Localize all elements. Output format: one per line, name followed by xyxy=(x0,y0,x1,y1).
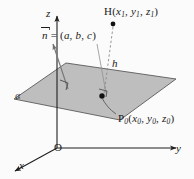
origin-label: O xyxy=(54,142,62,153)
figure-canvas xyxy=(0,0,194,179)
axis-z-label: z xyxy=(46,8,50,19)
distance-h-label: h xyxy=(112,58,118,69)
point-p0-label: P0(x0, y0, z0) xyxy=(118,113,174,125)
point-h-label: H(x1, y1, z1) xyxy=(104,6,158,18)
axis-y-label: y xyxy=(176,143,181,154)
point-p0-dot xyxy=(99,93,104,98)
normal-vector-equals: = ( xyxy=(48,29,64,41)
normal-vector-close: ) xyxy=(92,29,96,41)
normal-vector-label: n = (a, b, c) xyxy=(42,30,96,41)
geometry-figure: H(x1, y1, z1) n = (a, b, c) h P0(x0, y0,… xyxy=(0,0,194,179)
point-h-name: H xyxy=(104,5,112,17)
point-h-dot xyxy=(111,22,116,27)
normal-vector-symbol: n xyxy=(42,30,48,41)
axis-x-label: x xyxy=(19,160,24,171)
